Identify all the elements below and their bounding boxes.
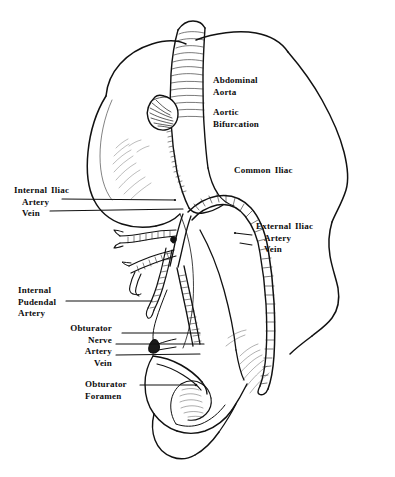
figure-background <box>0 0 395 477</box>
label-obturator-artery: Artery <box>22 346 112 358</box>
label-internal-pudendal-line3: Artery <box>18 308 56 320</box>
label-internal-iliac: InternalIliac Artery Vein <box>14 185 69 220</box>
pelvis-vasculature-drawing <box>0 0 395 477</box>
label-obturator-foramen-line2: Foramen <box>85 391 127 403</box>
anatomical-figure: Abdominal Aorta Aortic Bifurcation Commo… <box>0 0 395 477</box>
label-external-iliac-word1: External <box>256 221 291 231</box>
label-abdominal-aorta: Abdominal Aorta <box>213 75 258 98</box>
label-external-iliac-artery: Artery <box>256 233 313 245</box>
label-common-iliac-text: CommonIliac <box>234 165 293 177</box>
label-aortic-bifurcation-line1: Aortic <box>213 107 259 119</box>
label-obturator-nerve: Nerve <box>22 335 112 347</box>
label-internal-pudendal-artery: Internal Pudendal Artery <box>18 285 56 320</box>
label-aortic-bifurcation: Aortic Bifurcation <box>213 107 259 130</box>
label-internal-iliac-word2: Iliac <box>51 185 69 195</box>
label-external-iliac-word2: Iliac <box>295 221 313 231</box>
label-internal-iliac-line1: InternalIliac <box>14 185 69 197</box>
label-common-iliac-word1: Common <box>234 165 271 175</box>
label-common-iliac-word2: Iliac <box>275 165 293 175</box>
label-abdominal-aorta-line2: Aorta <box>213 87 258 99</box>
label-obturator-foramen: Obturator Foramen <box>85 379 127 402</box>
label-obturator-vessels-line1: Obturator <box>22 323 112 335</box>
label-aortic-bifurcation-line2: Bifurcation <box>213 119 259 131</box>
label-internal-iliac-word1: Internal <box>14 185 47 195</box>
label-internal-pudendal-line1: Internal <box>18 285 56 297</box>
label-internal-iliac-vein: Vein <box>14 208 69 220</box>
label-external-iliac-vein: Vein <box>256 244 313 256</box>
label-abdominal-aorta-line1: Abdominal <box>213 75 258 87</box>
label-obturator-vein: Vein <box>22 358 112 370</box>
label-external-iliac: ExternalIliac Artery Vein <box>256 221 313 256</box>
label-external-iliac-line1: ExternalIliac <box>256 221 313 233</box>
label-obturator-foramen-line1: Obturator <box>85 379 127 391</box>
label-common-iliac: CommonIliac <box>234 165 293 177</box>
label-obturator-vessels: Obturator Nerve Artery Vein <box>22 323 112 369</box>
label-internal-iliac-artery: Artery <box>14 197 69 209</box>
label-internal-pudendal-line2: Pudendal <box>18 297 56 309</box>
